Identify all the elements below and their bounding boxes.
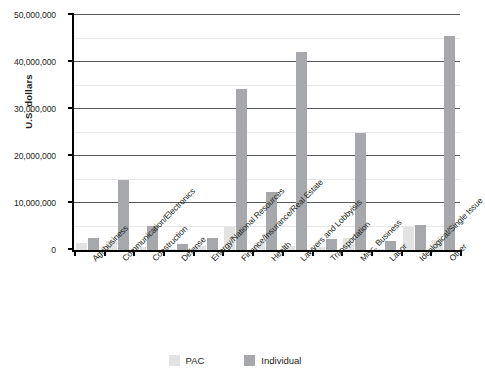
y-tick-label: 30,000,000	[0, 104, 56, 114]
legend-label-pac: PAC	[186, 355, 205, 366]
y-tick-label: 0	[0, 245, 56, 255]
legend-label-individual: Individual	[261, 355, 301, 366]
y-tick-mark	[68, 13, 74, 15]
bar-group	[74, 15, 104, 250]
bar-group	[193, 15, 223, 250]
y-tick-mark	[68, 154, 74, 156]
bar-pac[interactable]	[76, 243, 87, 250]
plot-area: 010,000,00020,000,00030,000,00040,000,00…	[72, 15, 460, 252]
chart-legend: PAC Individual	[0, 355, 470, 366]
y-tick-label: 10,000,000	[0, 198, 56, 208]
bar-group	[222, 15, 252, 250]
bar-group	[312, 15, 342, 250]
y-tick-label: 50,000,000	[0, 10, 56, 20]
legend-item-pac[interactable]: PAC	[169, 355, 205, 366]
legend-swatch-individual-icon	[244, 355, 255, 366]
legend-swatch-pac-icon	[169, 355, 180, 366]
bar-group	[104, 15, 134, 250]
bar-individual[interactable]	[415, 225, 426, 250]
bar-group	[430, 15, 460, 250]
y-tick-label: 40,000,000	[0, 57, 56, 67]
y-tick-mark	[68, 60, 74, 62]
y-tick-mark	[68, 201, 74, 203]
bar-group	[401, 15, 431, 250]
y-tick-label: 20,000,000	[0, 151, 56, 161]
legend-item-individual[interactable]: Individual	[244, 355, 301, 366]
bar-group	[133, 15, 163, 250]
y-tick-mark	[68, 107, 74, 109]
x-tick-mark	[74, 250, 76, 256]
bar-individual[interactable]	[296, 52, 307, 250]
bar-group	[371, 15, 401, 250]
